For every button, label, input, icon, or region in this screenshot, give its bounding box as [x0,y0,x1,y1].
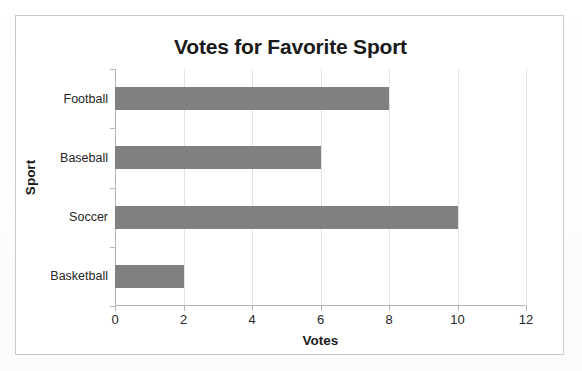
y-tick [110,69,115,70]
x-tick-label: 2 [164,312,204,327]
bar [115,206,458,229]
x-tick-label: 10 [438,312,478,327]
y-tick [110,247,115,248]
x-tick-12 [526,306,527,311]
x-tick-6 [321,306,322,311]
y-axis-tick-labels: BasketballSoccerBaseballFootball [16,16,108,356]
x-tick-label: 12 [506,312,546,327]
x-tick-label: 4 [232,312,272,327]
y-tick-label: Basketball [18,269,108,283]
y-tick-label: Baseball [18,151,108,165]
y-tick-label: Soccer [18,210,108,224]
y-tick-label: Football [18,92,108,106]
x-tick-8 [389,306,390,311]
x-axis-tick-labels: 024681012 [115,312,526,332]
bar [115,146,321,169]
x-axis-title: Votes [115,333,526,348]
bar [115,265,184,288]
x-axis-line [115,305,526,306]
gridline-12 [526,69,527,306]
bar [115,87,389,110]
x-tick-0 [115,306,116,311]
gridline-10 [458,69,459,306]
y-tick [110,188,115,189]
x-tick-label: 8 [369,312,409,327]
x-tick-label: 0 [95,312,135,327]
x-tick-10 [458,306,459,311]
x-tick-2 [184,306,185,311]
gridline-8 [389,69,390,306]
y-tick [110,128,115,129]
plot-area [115,69,526,306]
x-tick-4 [252,306,253,311]
chart-screenshot: Votes for Favorite Sport Sport Basketbal… [0,0,582,371]
chart-frame: Votes for Favorite Sport Sport Basketbal… [15,15,564,355]
x-tick-label: 6 [301,312,341,327]
